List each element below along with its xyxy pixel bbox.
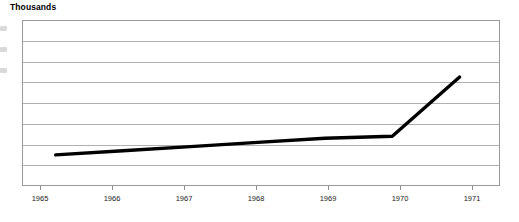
x-axis-label: 1965 bbox=[20, 194, 60, 203]
x-axis-tick bbox=[40, 186, 41, 190]
x-axis-tick bbox=[472, 186, 473, 190]
x-axis-tick bbox=[400, 186, 401, 190]
x-axis-tick bbox=[112, 186, 113, 190]
x-axis-label: 1967 bbox=[164, 194, 204, 203]
x-axis-label: 1968 bbox=[236, 194, 276, 203]
x-axis-label: 1970 bbox=[380, 194, 420, 203]
y-tick-label-clipped bbox=[0, 47, 7, 52]
x-axis-label: 1971 bbox=[452, 194, 492, 203]
chart-screenshot: Thousands 1965 1966 1967 1968 1969 1970 … bbox=[0, 0, 519, 222]
chart-title: Thousands bbox=[10, 2, 56, 12]
data-series-line bbox=[22, 20, 500, 186]
x-axis-tick bbox=[328, 186, 329, 190]
x-axis-tick bbox=[184, 186, 185, 190]
x-axis-label: 1966 bbox=[92, 194, 132, 203]
x-axis-tick bbox=[256, 186, 257, 190]
y-tick-label-clipped bbox=[0, 68, 7, 73]
y-tick-label-clipped bbox=[0, 26, 7, 31]
x-axis-label: 1969 bbox=[308, 194, 348, 203]
